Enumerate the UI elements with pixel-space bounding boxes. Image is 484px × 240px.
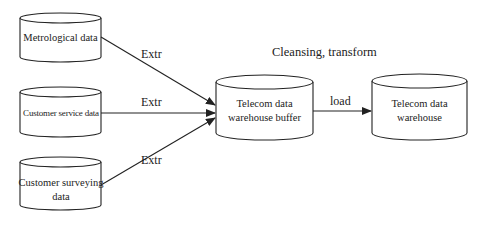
- edge-label-extr-2: Extr: [141, 95, 162, 110]
- node-label-buffer-line1: Telecom data: [216, 97, 313, 111]
- edge-label-extr-1: Extr: [141, 47, 162, 62]
- stage-label: Cleansing, transform: [272, 45, 377, 60]
- node-label-warehouse-line1: Telecom data: [372, 97, 467, 111]
- node-label-buffer-line2: warehouse buffer: [216, 111, 313, 125]
- node-label-buffer: Telecom data warehouse buffer: [216, 97, 313, 125]
- node-label-warehouse-line2: warehouse: [372, 111, 467, 125]
- node-label-customer-service: Customer service data: [18, 106, 104, 120]
- edge-customer-surveying-buffer: [101, 118, 215, 185]
- edge-label-extr-3: Extr: [141, 153, 162, 168]
- node-label-warehouse: Telecom data warehouse: [372, 97, 467, 125]
- node-label-metrological: Metrological data: [20, 31, 101, 45]
- node-label-customer-surveying: Customer surveying data: [18, 176, 104, 204]
- node-label-customer-surveying-line2: data: [18, 190, 104, 204]
- edge-label-load: load: [330, 94, 351, 109]
- node-label-customer-surveying-line1: Customer surveying: [18, 176, 104, 190]
